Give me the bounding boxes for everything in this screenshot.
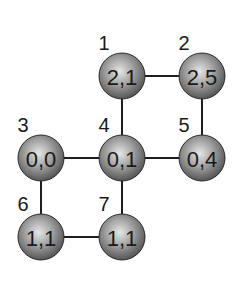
node-value-label: 0,4 (187, 147, 218, 172)
graph-diagram: 2,112,520,030,140,451,161,17 (0, 0, 246, 285)
node-index-label: 2 (178, 32, 189, 54)
node-3: 0,03 (17, 114, 64, 181)
node-index-label: 7 (98, 193, 109, 215)
node-value-label: 2,1 (107, 65, 138, 90)
node-1: 2,11 (98, 32, 145, 99)
node-index-label: 4 (98, 114, 109, 136)
node-value-label: 1,1 (26, 226, 57, 251)
node-index-label: 6 (17, 193, 28, 215)
node-value-label: 0,0 (26, 147, 57, 172)
node-index-label: 5 (178, 114, 189, 136)
node-index-label: 3 (17, 114, 28, 136)
node-value-label: 0,1 (107, 147, 138, 172)
node-value-label: 2,5 (187, 65, 218, 90)
node-index-label: 1 (98, 32, 109, 54)
node-value-label: 1,1 (107, 226, 138, 251)
node-2: 2,52 (178, 32, 225, 99)
nodes: 2,112,520,030,140,451,161,17 (17, 32, 225, 260)
